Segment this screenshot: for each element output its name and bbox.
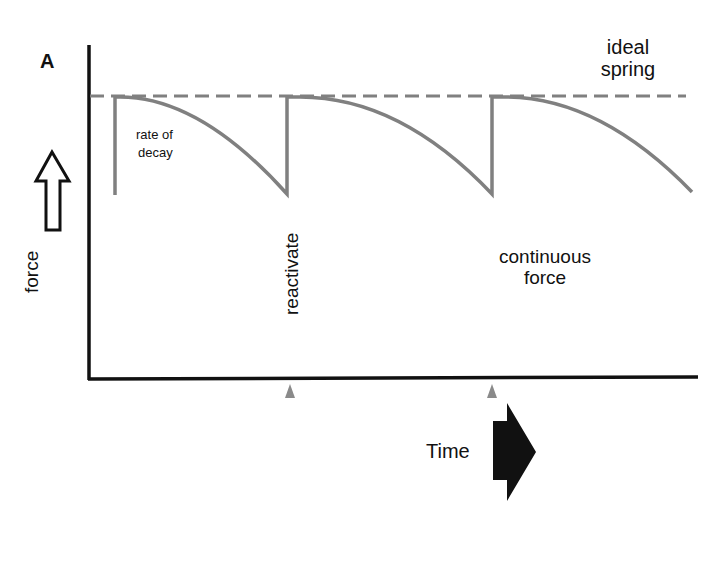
- rate-of-decay-label: rate of decay: [136, 126, 173, 161]
- x-axis-label: Time: [426, 440, 470, 462]
- force-arrow-icon: [36, 152, 69, 230]
- continuous-force-label-line1: continuous: [480, 247, 610, 268]
- continuous-force-label: continuous force: [480, 247, 610, 289]
- panel-label: A: [40, 50, 54, 72]
- time-arrow-icon: [493, 403, 536, 501]
- y-axis-label: force: [22, 251, 43, 293]
- ideal-spring-label-line2: spring: [588, 58, 668, 80]
- ideal-spring-label-line1: ideal: [588, 36, 668, 58]
- decay-curve: [115, 97, 692, 195]
- reactivate-label: reactivate: [282, 233, 303, 315]
- reactivation-marker-icon: [285, 384, 295, 398]
- x-axis: [88, 377, 698, 379]
- rate-of-decay-label-line1: rate of: [136, 126, 173, 144]
- ideal-spring-label: ideal spring: [588, 36, 668, 80]
- reactivation-marker-icon: [487, 384, 497, 398]
- rate-of-decay-label-line2: decay: [136, 144, 173, 162]
- force-decay-diagram: [0, 0, 727, 563]
- continuous-force-label-line2: force: [480, 268, 610, 289]
